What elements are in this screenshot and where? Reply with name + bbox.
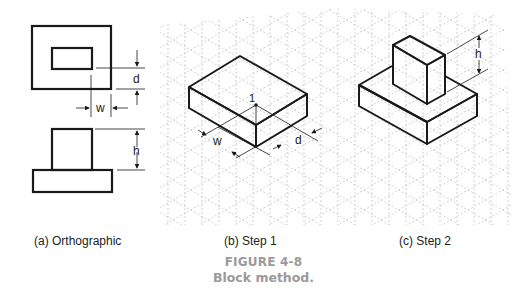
step2-upper-block xyxy=(393,36,445,104)
panel-label-orthographic: (a) Orthographic xyxy=(34,234,121,248)
panel-label-step2: (c) Step 2 xyxy=(399,234,451,248)
step1-construction-lines xyxy=(201,105,318,158)
dim-label-d: d xyxy=(133,72,140,86)
dim-label-d-step1: d xyxy=(295,133,302,147)
dimension-h-step2 xyxy=(447,30,488,92)
orthographic-front-view xyxy=(33,129,112,192)
orthographic-top-view xyxy=(32,26,111,89)
dim-label-h-step2: h xyxy=(475,47,482,61)
figure-number: FIGURE 4-8 xyxy=(0,255,527,269)
figure-title: Block method. xyxy=(0,270,527,285)
dim-label-w-step1: w xyxy=(212,134,222,148)
point-1-label: 1 xyxy=(249,92,255,104)
dim-label-w: w xyxy=(95,101,105,115)
dim-label-h: h xyxy=(133,144,140,158)
panel-label-step1: (b) Step 1 xyxy=(224,234,277,248)
step2-base-block xyxy=(359,66,477,144)
